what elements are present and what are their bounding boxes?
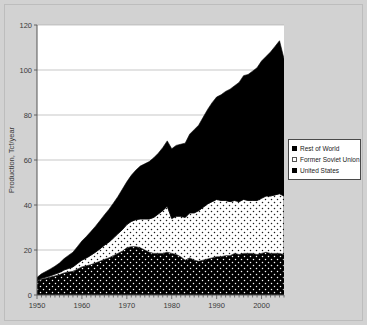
y-axis-title: Production, Tcf/year xyxy=(7,126,16,193)
x-tick-label: 2000 xyxy=(253,301,270,310)
y-axis: 020406080100120 xyxy=(19,21,37,300)
x-axis: 195019601970198019902000 xyxy=(29,295,284,310)
y-tick-label: 60 xyxy=(24,156,32,165)
y-tick-label: 100 xyxy=(19,66,32,75)
y-tick-label: 20 xyxy=(24,246,32,255)
x-tick-label: 1960 xyxy=(74,301,91,310)
legend-item-rest-of-world: Rest of World xyxy=(292,143,357,154)
y-tick-label: 80 xyxy=(24,111,32,120)
legend-item-former-soviet-union: Former Soviet Union xyxy=(292,154,357,165)
white-dotted-swatch-icon xyxy=(292,157,297,162)
legend-item-united-states: United States xyxy=(292,165,357,176)
x-tick-label: 1950 xyxy=(29,301,46,310)
legend-label-former-soviet-union: Former Soviet Union xyxy=(300,155,360,164)
chart-page: 020406080100120 195019601970198019902000… xyxy=(0,0,367,325)
y-tick-label: 0 xyxy=(28,291,32,300)
y-tick-label: 40 xyxy=(24,201,32,210)
x-tick-label: 1990 xyxy=(208,301,225,310)
legend-label-united-states: United States xyxy=(300,166,339,175)
x-tick-label: 1970 xyxy=(118,301,135,310)
legend-label-rest-of-world: Rest of World xyxy=(300,144,339,153)
y-tick-label: 120 xyxy=(19,21,32,30)
x-tick-label: 1980 xyxy=(163,301,180,310)
solid-black-swatch-icon xyxy=(292,146,297,151)
chart-legend: Rest of World Former Soviet Union United… xyxy=(288,139,361,180)
black-dotted-swatch-icon xyxy=(292,168,297,173)
